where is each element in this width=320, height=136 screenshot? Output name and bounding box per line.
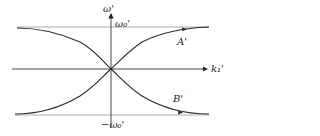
y-bottom-label: −ω₀' (101, 120, 124, 130)
curve-b-label: B' (173, 94, 183, 104)
y-axis-label: ω' (103, 4, 114, 14)
curve-a-label: A' (177, 37, 187, 47)
x-axis-label: k₁' (211, 64, 224, 74)
curve-a-arrow-icon (182, 27, 187, 31)
y-top-label: ω₀' (115, 19, 130, 29)
